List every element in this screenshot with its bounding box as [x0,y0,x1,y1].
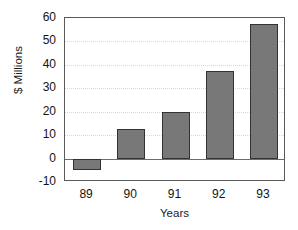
x-tick-label: 92 [199,188,239,200]
y-tick-label: 30 [0,81,56,93]
x-tick-label: 90 [110,188,150,200]
bar-92 [206,71,234,159]
bar-chart: $ Millions -100102030405060 8990919293 Y… [0,0,298,230]
x-tick-label: 93 [243,188,283,200]
x-tick-label: 89 [66,188,106,200]
bar-91 [162,112,190,159]
y-tick-label: 50 [0,34,56,46]
bar-90 [117,129,145,158]
y-tick-label: 40 [0,58,56,70]
bar-93 [250,24,278,159]
y-tick-label: -10 [0,175,56,187]
plot-area [64,17,285,181]
x-axis-title: Years [64,207,285,219]
x-tick-label: 91 [155,188,195,200]
y-tick-label: 60 [0,11,56,23]
y-tick-label: 20 [0,105,56,117]
bar-89 [73,159,101,171]
y-tick-label: 0 [0,152,56,164]
y-tick-label: 10 [0,128,56,140]
